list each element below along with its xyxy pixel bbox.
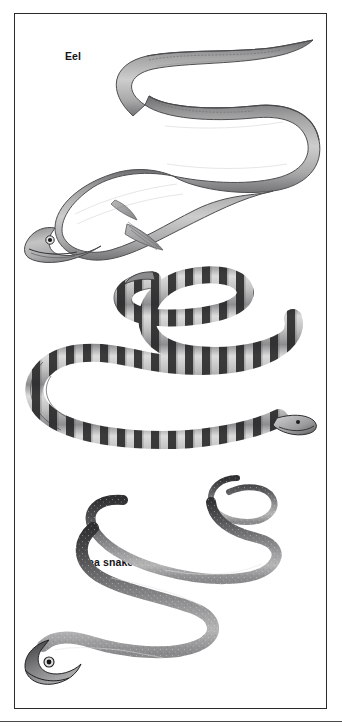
eel-body-shading [75,54,289,224]
illustration-plate: Eel [0,0,342,727]
figure-eel: Eel [15,18,328,268]
sea-snake-illustration [15,264,328,464]
figure-ophiderpeton: Ophiderpeton [15,474,328,706]
eel-pupil [48,238,52,242]
ophiderpeton-lower-body [43,528,213,652]
sea-snake-eye [296,420,300,424]
sea-snake-body [34,275,294,440]
plate-frame-border: Eel [14,13,327,709]
footer-rule [0,721,342,722]
figure-label-eel: Eel [65,50,81,62]
ophiderpeton-pupil [47,660,52,665]
eel-gill-fold [111,200,137,220]
ophiderpeton-midbody [91,500,277,579]
figure-sea-snake: Sea snake [15,264,328,464]
eel-illustration [15,18,328,268]
ophiderpeton-illustration [15,474,328,706]
sea-snake-head [273,415,316,435]
